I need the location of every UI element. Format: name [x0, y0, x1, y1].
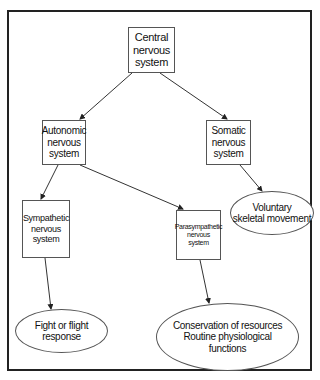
edge-sympathetic-fight [45, 258, 51, 309]
node-conservation-routine-functions: Conservation of resources Routine physio… [156, 303, 299, 371]
node-voluntary-skeletal-movement: Voluntary skeletal movement [230, 191, 314, 235]
node-fight-or-flight-response: Fight or flight response [15, 309, 108, 353]
node-sympathetic-nervous-system: Sympathetic nervous system [22, 200, 70, 258]
edge-autonomic-sympathetic [41, 165, 58, 199]
edge-central-autonomic [80, 73, 132, 119]
edge-parasympathetic-conservation [200, 260, 209, 303]
edge-somatic-voluntary [240, 165, 262, 191]
node-autonomic-nervous-system: Autonomic nervous system [42, 120, 86, 165]
edge-autonomic-parasympathetic [80, 165, 183, 209]
edge-central-somatic [160, 73, 227, 119]
node-central-nervous-system: Central nervous system [128, 27, 175, 73]
node-somatic-nervous-system: Somatic nervous system [206, 120, 251, 165]
node-parasympathetic-nervous-system: Parasympathetic nervous system [176, 210, 221, 260]
